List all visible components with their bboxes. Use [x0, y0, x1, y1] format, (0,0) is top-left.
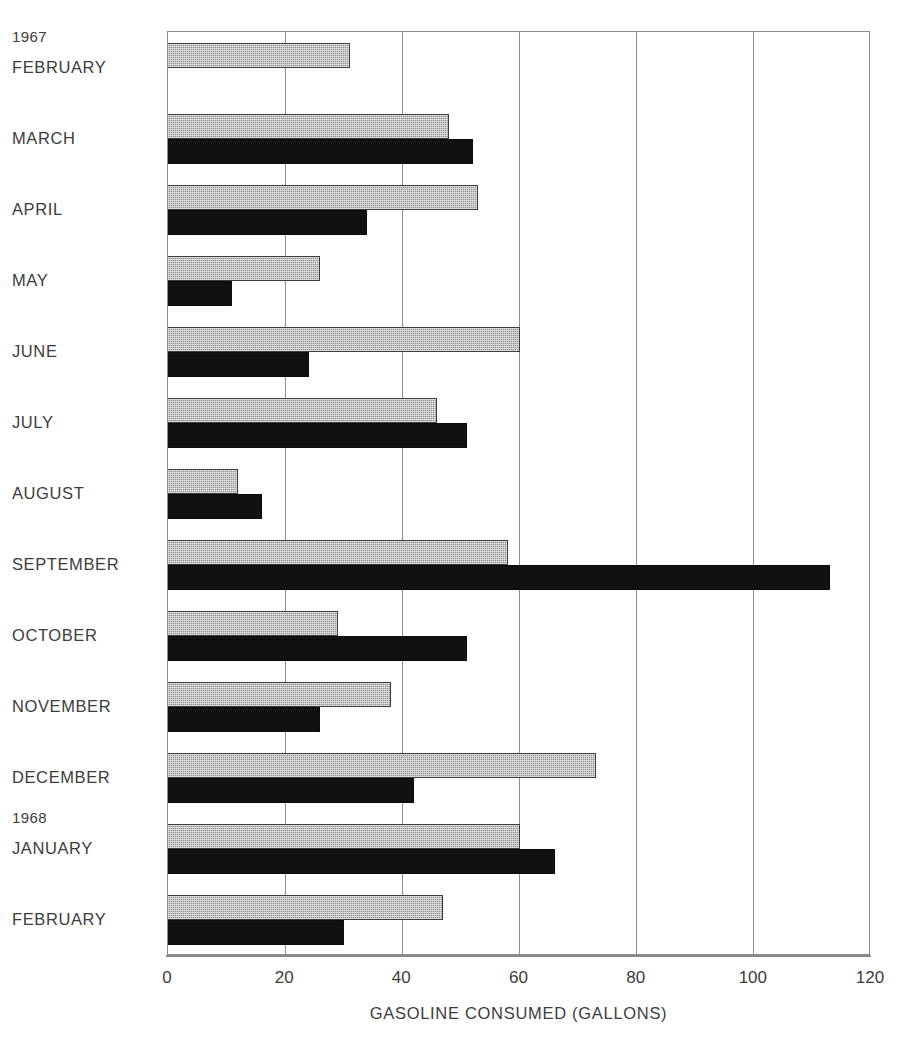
bar-dark-february-12 — [168, 920, 344, 945]
gridline-40 — [402, 32, 403, 954]
x-axis: 020406080100120 — [167, 955, 870, 957]
bar-gray-january-11 — [168, 824, 520, 849]
bar-dark-september-7 — [168, 565, 830, 590]
category-label-september-7: SEPTEMBER — [12, 556, 119, 573]
category-label-july-5: JULY — [12, 414, 54, 431]
category-label-december-10: DECEMBER — [12, 769, 110, 786]
category-label-november-9: NOVEMBER — [12, 698, 111, 715]
category-label-april-2: APRIL — [12, 201, 63, 218]
bar-dark-may-3 — [168, 281, 232, 306]
bar-gray-february-12 — [168, 895, 443, 920]
category-label-february-12: FEBRUARY — [12, 911, 106, 928]
bar-gray-april-2 — [168, 185, 478, 210]
bar-dark-november-9 — [168, 707, 320, 732]
gridline-60 — [519, 32, 520, 954]
bar-gray-july-5 — [168, 398, 437, 423]
bar-dark-october-8 — [168, 636, 467, 661]
plot-area — [167, 31, 870, 955]
bar-gray-december-10 — [168, 753, 596, 778]
x-tick-label-0: 0 — [162, 969, 171, 986]
category-label-january-11: JANUARY — [12, 840, 93, 857]
bar-gray-october-8 — [168, 611, 338, 636]
gridline-100 — [753, 32, 754, 954]
bar-gray-november-9 — [168, 682, 391, 707]
bar-dark-march-1 — [168, 139, 473, 164]
bar-dark-july-5 — [168, 423, 467, 448]
gasoline-consumption-bar-chart: FEBRUARY1967MARCHAPRILMAYJUNEJULYAUGUSTS… — [0, 0, 902, 1060]
year-label-1968: 1968 — [12, 810, 47, 825]
x-axis-title: GASOLINE CONSUMED (GALLONS) — [167, 1005, 870, 1022]
category-label-october-8: OCTOBER — [12, 627, 98, 644]
category-label-august-6: AUGUST — [12, 485, 84, 502]
x-tick-label-40: 40 — [392, 969, 411, 986]
gridline-80 — [636, 32, 637, 954]
x-tick-label-20: 20 — [275, 969, 294, 986]
bar-gray-february-0 — [168, 43, 350, 68]
bar-dark-june-4 — [168, 352, 309, 377]
category-label-february-0: FEBRUARY — [12, 59, 106, 76]
gridline-20 — [285, 32, 286, 954]
bar-gray-june-4 — [168, 327, 520, 352]
bar-gray-september-7 — [168, 540, 508, 565]
year-label-1967: 1967 — [12, 29, 47, 44]
x-tick-label-80: 80 — [626, 969, 645, 986]
category-label-march-1: MARCH — [12, 130, 76, 147]
x-tick-label-100: 100 — [739, 969, 767, 986]
bar-dark-december-10 — [168, 778, 414, 803]
x-tick-label-120: 120 — [856, 969, 884, 986]
bar-gray-may-3 — [168, 256, 320, 281]
bar-dark-january-11 — [168, 849, 555, 874]
x-axis-line — [166, 955, 871, 957]
category-axis-labels: FEBRUARY1967MARCHAPRILMAYJUNEJULYAUGUSTS… — [0, 0, 167, 955]
bar-dark-august-6 — [168, 494, 262, 519]
x-tick-label-60: 60 — [509, 969, 528, 986]
category-label-june-4: JUNE — [12, 343, 58, 360]
bar-gray-august-6 — [168, 469, 238, 494]
bar-dark-april-2 — [168, 210, 367, 235]
bar-gray-march-1 — [168, 114, 449, 139]
category-label-may-3: MAY — [12, 272, 48, 289]
